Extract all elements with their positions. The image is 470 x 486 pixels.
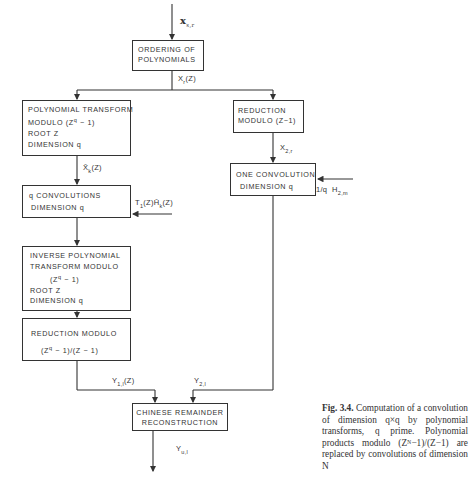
q-convolutions-box: q CONVOLUTIONS DIMENSION q bbox=[22, 185, 131, 218]
edge-label-xr: Xr(Z) bbox=[178, 74, 196, 85]
polynomial-transform-box: POLYNOMIAL TRANSFORM MODULO (Zq − 1) ROO… bbox=[22, 100, 131, 156]
crt-line-1: CHINESE REMAINDER bbox=[136, 408, 224, 418]
crt-line-2: RECONSTRUCTION bbox=[136, 418, 224, 428]
edge-label-h2m: 1/q H2,m bbox=[316, 185, 348, 196]
caption-text: Computation of a convolution of dimensio… bbox=[322, 403, 468, 471]
ipt-line-3: (Zq − 1) bbox=[30, 272, 123, 286]
pt-line-1: POLYNOMIAL TRANSFORM bbox=[28, 104, 125, 115]
input-label-x-sr: xs,r bbox=[180, 15, 194, 28]
edge-label-y1l: Y1,l(Z) bbox=[112, 376, 135, 387]
reduction-modulo-zq-box: REDUCTION MODULO (Zq − 1)/(Z − 1) bbox=[22, 318, 131, 361]
pt-line-2: MODULO (Zq − 1) bbox=[28, 115, 125, 128]
figure-caption: Fig. 3.4. Computation of a convolution o… bbox=[322, 403, 468, 473]
oc-line-1: ONE CONVOLUTION bbox=[236, 169, 310, 181]
edge-label-yul: Yu,l bbox=[176, 444, 188, 455]
rl-line-2: (Zq − 1)/(Z − 1) bbox=[31, 341, 122, 358]
edge-label-t1-hk: T1(Z)H̄k(Z) bbox=[135, 198, 173, 209]
qc-line-2: DIMENSION q bbox=[29, 202, 124, 214]
ordering-line-2: POLYNOMIALS bbox=[138, 55, 198, 65]
reduction-modulo-z-minus-1-box: REDUCTION MODULO (Z−1) bbox=[233, 100, 304, 133]
pt-line-4: DIMENSION q bbox=[28, 139, 125, 150]
inverse-polynomial-transform-box: INVERSE POLYNOMIAL TRANSFORM MODULO (Zq … bbox=[22, 246, 131, 311]
ordering-of-polynomials-box: ORDERING OF POLYNOMIALS bbox=[132, 40, 204, 71]
oc-line-2: DIMENSION q bbox=[236, 181, 310, 193]
rr-line-2: MODULO (Z−1) bbox=[238, 116, 299, 126]
ipt-line-2: TRANSFORM MODULO bbox=[30, 262, 123, 273]
edge-label-y2l: Y2,l bbox=[194, 376, 206, 387]
edge-label-x2r: X2,r bbox=[280, 143, 293, 154]
ipt-line-4: ROOT Z bbox=[30, 286, 123, 297]
qc-line-1: q CONVOLUTIONS bbox=[29, 190, 124, 202]
ipt-line-5: DIMENSION q bbox=[30, 296, 123, 307]
pt-line-3: ROOT Z bbox=[28, 128, 125, 139]
edge-label-xk: X̄k(Z) bbox=[83, 163, 102, 174]
one-convolution-box: ONE CONVOLUTION DIMENSION q bbox=[230, 163, 316, 196]
ipt-line-1: INVERSE POLYNOMIAL bbox=[30, 251, 123, 262]
caption-label: Fig. 3.4. bbox=[322, 403, 354, 413]
rr-line-1: REDUCTION bbox=[238, 106, 299, 116]
rl-line-1: REDUCTION MODULO bbox=[31, 327, 122, 341]
chinese-remainder-reconstruction-box: CHINESE REMAINDER RECONSTRUCTION bbox=[132, 403, 228, 431]
ordering-line-1: ORDERING OF bbox=[138, 45, 198, 55]
